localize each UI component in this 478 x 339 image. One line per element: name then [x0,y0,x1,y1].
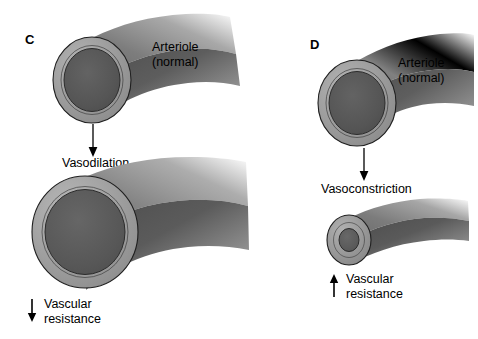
label-vascular-resistance-c-line1: Vascular [44,297,92,311]
label-arteriole-normal-c: Arteriole (normal) [152,40,232,69]
label-vascular-resistance-d-line2: resistance [346,287,403,301]
label-arteriole-normal-d-line1: Arteriole [398,56,445,70]
label-vasoconstriction: Vasoconstriction [321,182,412,196]
label-arteriole-normal-d: Arteriole (normal) [398,56,478,85]
label-arteriole-normal-c-line1: Arteriole [152,40,199,54]
label-vascular-resistance-d: Vascular resistance [346,272,436,301]
up-arrow-icon-vascular-resistance-d [328,273,340,297]
label-vascular-resistance-c: Vascular resistance [44,297,134,326]
label-vascular-resistance-d-line1: Vascular [346,272,394,286]
label-vascular-resistance-c-line2: resistance [44,312,101,326]
down-arrow-icon-vasoconstriction [357,148,371,182]
down-arrow-icon-vascular-resistance-c [26,299,38,323]
label-arteriole-normal-c-line2: (normal) [152,55,199,69]
vessel-c-normal-arteriole [0,0,250,150]
label-arteriole-normal-d-line2: (normal) [398,71,445,85]
